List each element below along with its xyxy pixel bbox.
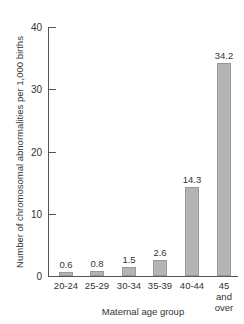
y-tick (48, 27, 56, 28)
x-axis (48, 276, 238, 277)
y-tick-label: 10 (31, 208, 42, 219)
bar (122, 267, 136, 276)
bar-value-label: 2.6 (145, 247, 175, 258)
y-axis-label: Number of chromosomal abnormalities per … (14, 36, 25, 268)
y-tick-label: 0 (36, 271, 42, 282)
bar (153, 260, 167, 276)
y-tick-label: 40 (31, 22, 42, 33)
y-tick-label: 30 (31, 84, 42, 95)
bar-value-label: 14.3 (177, 174, 207, 185)
bar (59, 272, 73, 276)
bar (217, 63, 231, 276)
y-tick (48, 214, 56, 215)
bar-value-label: 34.2 (209, 50, 239, 61)
bar-value-label: 1.5 (114, 254, 144, 265)
x-category-label: 35-39 (143, 280, 177, 291)
y-tick (48, 152, 56, 153)
bar-value-label: 0.8 (82, 258, 112, 269)
bar (185, 187, 199, 276)
y-tick (48, 89, 56, 90)
bar (90, 271, 104, 276)
x-axis-label: Maternal age group (48, 306, 238, 317)
x-category-label: 25-29 (80, 280, 114, 291)
bar-chart: Number of chromosomal abnormalities per … (0, 0, 244, 324)
x-category-label: 30-34 (112, 280, 146, 291)
x-category-label: 40-44 (175, 280, 209, 291)
y-tick-label: 20 (31, 146, 42, 157)
x-category-label: 20-24 (49, 280, 83, 291)
bar-value-label: 0.6 (51, 259, 81, 270)
